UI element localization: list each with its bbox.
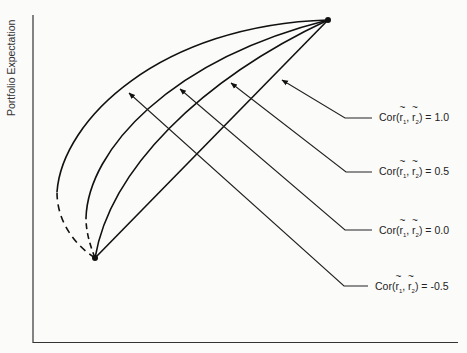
label-corr-0.0: Cor(r1, r2) = 0.0 <box>379 224 449 238</box>
curve-corr-neg0.5-dashed <box>57 192 95 258</box>
curve-corr-0.0-dashed <box>86 218 95 258</box>
label-corr-neg0.5: Cor(r1, r2) = -0.5 <box>375 280 449 294</box>
leader-corr-0.0 <box>180 89 372 230</box>
asset-low-point <box>92 255 98 261</box>
leader-corr-neg0.5 <box>129 93 368 286</box>
y-axis-label: Portfolio Expectation <box>4 18 18 128</box>
frontier-diagram: Portfolio Expectation Cor(r1, r2) = 1.0 … <box>0 0 467 353</box>
leader-corr-1.0 <box>282 80 372 118</box>
label-corr-0.5: Cor(r1, r2) = 0.5 <box>379 165 449 179</box>
label-corr-1.0: Cor(r1, r2) = 1.0 <box>379 111 449 125</box>
asset-high-point <box>325 17 331 23</box>
curve-corr-1.0 <box>95 20 328 258</box>
